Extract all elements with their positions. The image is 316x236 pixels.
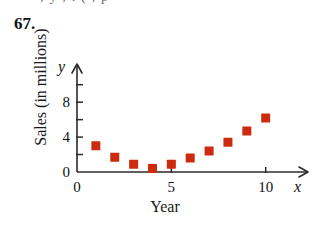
data-points-group	[91, 113, 270, 173]
data-point-marker	[205, 147, 214, 156]
data-point-marker	[186, 154, 195, 163]
y-axis-title: Sales (in millions)	[32, 2, 50, 172]
data-point-marker	[91, 141, 100, 150]
y-tick-label: 4	[63, 129, 71, 145]
y-axis-variable-label: y	[56, 58, 66, 76]
data-point-marker	[223, 138, 232, 147]
figure-container: , y , . ( , p 67. Sales (in millions) Ye…	[0, 0, 316, 236]
x-tick-label: 5	[168, 179, 176, 195]
data-point-marker	[129, 160, 138, 169]
data-point-marker	[110, 153, 119, 162]
clipped-header-text: , y , . ( , p	[40, 0, 300, 5]
data-point-marker	[261, 113, 270, 122]
y-tick-label: 8	[63, 94, 71, 110]
x-tick-label: 10	[258, 179, 273, 195]
data-point-marker	[167, 160, 176, 169]
scatter-plot: 0510048 x y	[56, 58, 314, 198]
data-point-marker	[148, 164, 157, 173]
x-axis-variable-label: x	[293, 178, 301, 195]
x-axis-title: Year	[110, 198, 220, 216]
data-point-marker	[242, 126, 251, 135]
y-tick-label: 0	[63, 164, 71, 180]
x-tick-label: 0	[73, 179, 81, 195]
